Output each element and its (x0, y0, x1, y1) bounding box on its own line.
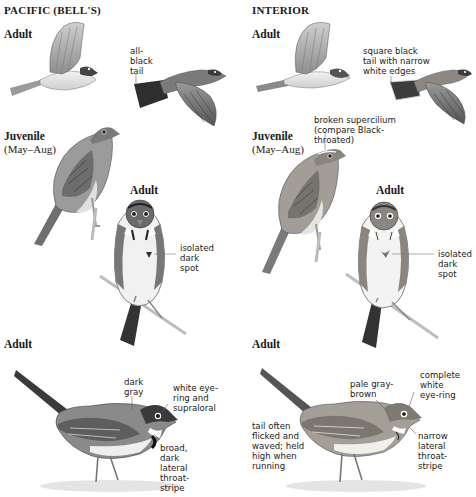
interior-flight-label: Adult (252, 28, 280, 40)
pacific-crown-note: dark gray (124, 377, 143, 397)
pacific-juvenile-months: (May–Aug) (4, 143, 56, 155)
pacific-throat-note: broad, dark lateral throat- stripe (160, 443, 189, 493)
pacific-front-adult-bird (100, 200, 186, 346)
interior-flight-squaretail-bird (390, 70, 472, 125)
pacific-front-note: isolated dark spot (180, 243, 214, 273)
interior-front-note: isolated dark spot (438, 249, 472, 279)
pacific-juvenile-label: Juvenile (4, 130, 45, 142)
pacific-eye-note: white eye- ring and supraloral (173, 383, 218, 413)
pacific-side-adult-bird (14, 370, 180, 492)
interior-front-label: Adult (376, 184, 404, 196)
interior-tail-note: tail often flicked and waved; held high … (252, 421, 304, 471)
interior-title: INTERIOR (252, 4, 309, 16)
pacific-flight-label: Adult (4, 28, 32, 40)
interior-front-adult-bird (346, 202, 438, 348)
pacific-side-label: Adult (4, 338, 32, 350)
interior-crown-note: pale gray- brown (350, 379, 393, 399)
interior-juvenile-months: (May–Aug) (252, 143, 304, 155)
pacific-flight-note: all- black tail (130, 46, 153, 76)
interior-juvenile-note: broken supercilium (compare Black- throa… (314, 115, 396, 145)
pacific-flight-blacktail-bird (134, 70, 226, 127)
interior-flight-note: square black tail with narrow white edge… (363, 46, 430, 76)
interior-side-label: Adult (252, 338, 280, 350)
interior-throat-note: narrow lateral throat- stripe (418, 431, 448, 471)
pacific-front-label: Adult (130, 184, 158, 196)
pacific-title: PACIFIC (BELL'S) (4, 4, 101, 16)
interior-juvenile-label: Juvenile (252, 130, 293, 142)
interior-eye-note: complete white eye-ring (420, 370, 460, 400)
